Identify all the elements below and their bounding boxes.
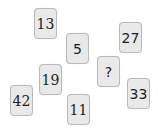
number-tile-33[interactable]: 33 [127,78,150,109]
tile-value: 19 [42,73,60,87]
tile-value: 27 [122,31,140,45]
question-mark: ? [105,65,112,79]
number-tile-11[interactable]: 11 [67,94,90,125]
tile-value: 33 [130,87,148,101]
unknown-tile[interactable]: ? [97,56,120,87]
number-tile-13[interactable]: 13 [34,8,57,39]
number-tile-5[interactable]: 5 [66,33,89,64]
number-tile-27[interactable]: 27 [119,22,142,53]
puzzle-board: 13 5 27 ? 19 42 33 11 [0,0,158,132]
tile-value: 5 [73,42,82,56]
tile-value: 11 [70,103,88,117]
tile-value: 42 [13,94,31,108]
number-tile-42[interactable]: 42 [10,85,33,116]
number-tile-19[interactable]: 19 [39,64,62,95]
tile-value: 13 [37,17,55,31]
